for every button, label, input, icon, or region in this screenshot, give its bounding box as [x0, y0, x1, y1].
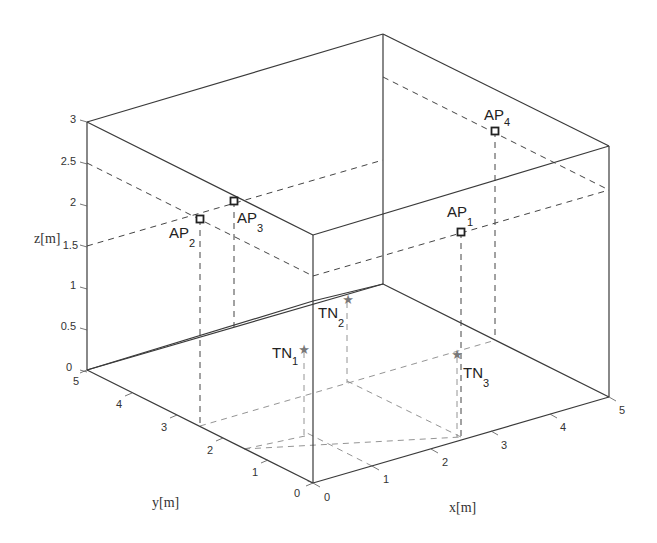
z-tick-2: 2 — [70, 196, 76, 208]
tn1-star-icon: ★ — [298, 342, 310, 357]
box-back-edges — [87, 34, 609, 397]
ap4-label: AP4 — [484, 106, 510, 128]
x-tick-2: 2 — [442, 456, 448, 468]
x-axis-label: x[m] — [449, 500, 476, 515]
y-tick-4: 4 — [116, 398, 122, 410]
ap1-label: AP1 — [447, 203, 473, 228]
y-tick-1: 1 — [252, 466, 258, 478]
y-tick-3: 3 — [161, 421, 167, 433]
x-axis: 0 1 2 3 4 5 x[m] — [313, 397, 625, 515]
tn-markers: ★ ★ ★ — [298, 292, 463, 362]
x-tick-5: 5 — [619, 404, 625, 416]
x-tick-3: 3 — [501, 439, 507, 451]
y-tick-5: 5 — [73, 375, 79, 387]
z-tick-1.5: 1.5 — [63, 239, 78, 251]
y-tick-0: 0 — [294, 487, 300, 499]
tn1-label: TN1 — [272, 344, 298, 367]
z-tick-0.5: 0.5 — [61, 320, 76, 332]
ap3-label: AP3 — [237, 209, 263, 234]
ap3-marker — [231, 198, 238, 205]
y-tick-2: 2 — [207, 444, 213, 456]
tn2-label: TN2 — [318, 304, 344, 329]
x-tick-1: 1 — [383, 473, 389, 485]
y-axis: 0 1 2 3 4 5 y[m] — [73, 370, 313, 510]
z-tick-0: 0 — [66, 361, 72, 373]
tn3-label: TN3 — [463, 364, 489, 389]
x-tick-0: 0 — [324, 491, 330, 503]
y-axis-label: y[m] — [152, 495, 179, 510]
z-tick-3: 3 — [70, 113, 76, 125]
x-tick-4: 4 — [560, 421, 566, 433]
chart-3d: 0 0.5 1 1.5 2 2.5 3 z[m] 0 1 2 3 4 5 y[m… — [0, 0, 657, 543]
ap2-marker — [197, 216, 204, 223]
ap1-marker — [458, 229, 465, 236]
ap2-label: AP2 — [169, 224, 195, 249]
tn3-star-icon: ★ — [451, 347, 463, 362]
ap4-marker — [492, 128, 499, 135]
z-tick-2.5: 2.5 — [61, 155, 76, 167]
tn2-star-icon: ★ — [342, 292, 354, 307]
z-axis-label: z[m] — [34, 231, 60, 246]
box-front-edges — [87, 34, 609, 483]
z-tick-1: 1 — [70, 279, 76, 291]
z-axis: 0 0.5 1 1.5 2 2.5 3 z[m] — [34, 113, 87, 373]
